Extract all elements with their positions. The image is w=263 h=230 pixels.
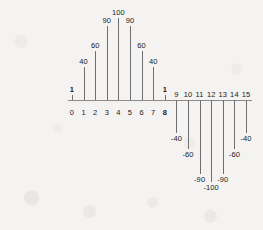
x-tick-label: 13: [219, 90, 228, 99]
data-value-label: 1: [163, 85, 167, 94]
data-value-label: 1: [70, 85, 74, 94]
data-value-label: -100: [203, 183, 218, 192]
data-value-label: -60: [229, 150, 240, 159]
x-tick-label: 14: [230, 90, 239, 99]
stem-line: [246, 100, 247, 133]
stem-line: [107, 26, 108, 100]
stem-plot: 10401602903100490560640718-409-6010-9011…: [0, 0, 263, 230]
chart-canvas: 10401602903100490560640718-409-6010-9011…: [0, 0, 263, 230]
x-tick-label: 15: [242, 90, 251, 99]
x-tick-label: 4: [116, 108, 120, 117]
x-tick-label: 11: [196, 90, 204, 99]
x-tick-label: 0: [70, 108, 74, 117]
data-value-label: 40: [79, 57, 88, 66]
stem-line: [72, 95, 73, 100]
x-tick-label: 3: [105, 108, 109, 117]
x-tick-label: 12: [207, 90, 216, 99]
stem-line: [95, 51, 96, 100]
data-value-label: 90: [103, 16, 112, 25]
x-tick-label: 1: [81, 108, 85, 117]
stem-line: [176, 100, 177, 133]
data-value-label: 100: [112, 8, 125, 17]
x-tick-label: 6: [139, 108, 143, 117]
data-value-label: -40: [240, 134, 251, 143]
stem-line: [200, 100, 201, 174]
x-tick-label: 8: [163, 108, 167, 117]
x-tick-label: 10: [184, 90, 193, 99]
stem-line: [118, 18, 119, 100]
stem-line: [153, 67, 154, 100]
stem-line: [84, 67, 85, 100]
data-value-label: 60: [91, 41, 100, 50]
stem-line: [130, 26, 131, 100]
x-tick-label: 7: [151, 108, 155, 117]
data-value-label: 90: [126, 16, 135, 25]
x-tick-label: 9: [174, 90, 178, 99]
data-value-label: 60: [137, 41, 146, 50]
stem-line: [165, 95, 166, 100]
data-value-label: -90: [217, 175, 228, 184]
stem-line: [211, 100, 212, 182]
x-axis-line: [68, 100, 252, 101]
stem-line: [234, 100, 235, 149]
x-tick-label: 2: [93, 108, 97, 117]
stem-line: [188, 100, 189, 149]
data-value-label: -40: [171, 134, 182, 143]
data-value-label: 40: [149, 57, 158, 66]
stem-line: [223, 100, 224, 174]
data-value-label: -60: [182, 150, 193, 159]
x-tick-label: 5: [128, 108, 132, 117]
stem-line: [142, 51, 143, 100]
